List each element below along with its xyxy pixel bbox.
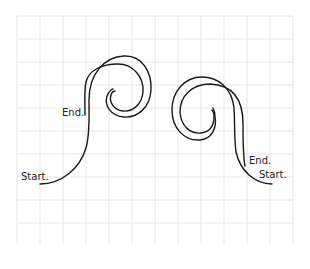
left-end-label: End. [62, 107, 84, 118]
right-end-label: End. [249, 155, 271, 166]
left-spiral-start-line [40, 56, 151, 184]
spiral-diagram: Start. End. End. Start. [0, 0, 310, 269]
right-start-label: Start. [259, 169, 287, 180]
left-start-label: Start. [21, 171, 49, 182]
background-grid [17, 16, 294, 244]
left-spiral-end-line [85, 64, 143, 115]
